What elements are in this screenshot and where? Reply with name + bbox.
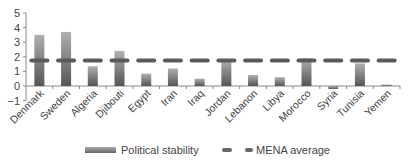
y-tick-label: 1 [14,65,20,77]
x-axis-category-labels: DenmarkSwedenAlgeriaDjiboutiEgyptIranIra… [7,86,393,125]
bar-iraq [195,79,205,86]
legend-bar-swatch [85,147,116,153]
x-category-label: Yemen [362,87,393,118]
legend-label-political-stability: Political stability [121,144,199,156]
x-category-label: Tunisia [334,87,366,119]
legend-item-political-stability: Political stability [85,142,199,158]
bar-chart: −1012345 DenmarkSwedenAlgeriaDjiboutiEgy… [0,0,412,168]
bar-djibouti [115,51,125,86]
bar-yemen [382,85,392,87]
legend-item-mena-average: MENA average [222,142,330,158]
bar-tunisia [355,63,365,86]
bar-algeria [88,66,98,86]
y-tick-label: 0 [14,80,20,92]
bar-egypt [141,74,151,86]
bar-lebanon [248,75,258,86]
x-axis [26,86,400,89]
legend-label-mena-average: MENA average [256,144,330,156]
y-axis: −1012345 [7,7,26,107]
bar-jordan [221,60,231,86]
y-tick-label: 2 [14,51,20,63]
y-tick-label: 5 [14,7,20,19]
y-tick-label: 3 [14,36,20,48]
x-category-label: Iran [158,87,179,108]
bar-libya [275,77,285,86]
x-category-label: Egypt [125,87,153,115]
legend-dash-swatch [245,148,253,152]
x-category-label: Iraq [185,87,206,108]
bar-iran [168,68,178,86]
y-tick-label: 4 [14,22,20,34]
x-category-label: Djibouti [93,87,126,120]
legend-dash-swatch [222,148,232,152]
